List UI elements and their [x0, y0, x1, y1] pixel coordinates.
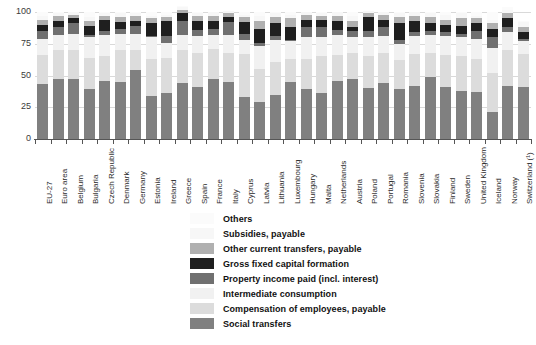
- bar-segment: [161, 58, 172, 94]
- legend-color-swatch: [190, 303, 214, 314]
- legend-color-swatch: [190, 273, 214, 284]
- bar-segment: [130, 26, 141, 34]
- x-axis-tick: [128, 139, 129, 144]
- legend-item[interactable]: Other current transfers, payable: [190, 241, 450, 256]
- legend-color-swatch: [190, 243, 214, 254]
- bar-stack: [425, 12, 436, 139]
- bar-segment: [115, 34, 126, 51]
- legend-item-label: Compensation of employees, payable: [223, 304, 386, 314]
- bar-segment: [363, 17, 374, 31]
- bar-segment: [223, 35, 234, 53]
- bar-segment: [487, 73, 498, 112]
- bar-segment: [84, 89, 95, 139]
- y-axis-tick-label: 25: [5, 102, 31, 111]
- x-axis-labels: EU-27Euro areaBelgiumBulgariaCzech Repub…: [35, 146, 531, 208]
- bar-segment: [192, 87, 203, 139]
- x-axis-tick: [190, 139, 191, 144]
- legend-color-swatch: [190, 258, 214, 269]
- bar-segment: [208, 79, 219, 139]
- bar-stack: [487, 12, 498, 139]
- x-axis-label: Euro area: [61, 169, 69, 204]
- bar-segment: [332, 35, 343, 55]
- x-axis-ticks: [35, 139, 531, 144]
- bar-stack: [192, 12, 203, 139]
- bar-segment: [68, 79, 79, 139]
- bar-segment: [130, 34, 141, 51]
- bar-segment: [409, 36, 420, 54]
- bar-segment: [192, 36, 203, 53]
- bar-stack: [68, 12, 79, 139]
- x-axis-tick: [330, 139, 331, 144]
- bar-segment: [301, 89, 312, 139]
- bar-segment: [440, 55, 451, 87]
- bar-segment: [425, 23, 436, 31]
- x-axis-tick: [314, 139, 315, 144]
- bar-segment: [316, 20, 327, 28]
- bar-segment: [254, 102, 265, 139]
- bar-segment: [192, 21, 203, 30]
- legend-item[interactable]: Intermediate consumption: [190, 286, 450, 301]
- x-axis-label: Hungary: [309, 174, 317, 204]
- x-axis-tick: [237, 139, 238, 144]
- bar-segment: [223, 82, 234, 139]
- bar-segment: [425, 77, 436, 139]
- bar-segment: [363, 56, 374, 88]
- bar-segment: [254, 29, 265, 43]
- bar-segment: [285, 82, 296, 139]
- x-axis-tick: [516, 139, 517, 144]
- bar-segment: [394, 60, 405, 89]
- bar-segment: [440, 36, 451, 55]
- y-axis-tick-label: 100: [5, 7, 31, 16]
- bar-segment: [471, 92, 482, 139]
- legend-item[interactable]: Others: [190, 211, 450, 226]
- x-axis-tick: [283, 139, 284, 144]
- x-axis-label: Ireland: [170, 180, 178, 204]
- x-axis-tick: [159, 139, 160, 144]
- bar-segment: [409, 54, 420, 86]
- legend-color-swatch: [190, 318, 214, 329]
- bar-stack: [301, 12, 312, 139]
- legend-item[interactable]: Gross fixed capital formation: [190, 256, 450, 271]
- x-axis-tick: [485, 139, 486, 144]
- bar-segment: [84, 26, 95, 35]
- bar-segment: [239, 40, 250, 54]
- bar-stack: [456, 12, 467, 139]
- x-axis-label: Denmark: [123, 172, 131, 204]
- x-axis-label: Switzerland (¹): [526, 152, 534, 204]
- x-axis-label: Iceland: [495, 178, 503, 204]
- legend-item-label: Others: [223, 214, 252, 224]
- x-axis-label: Malta: [325, 184, 333, 204]
- x-axis-label: Luxembourg: [294, 160, 302, 204]
- bar-segment: [130, 70, 141, 139]
- bar-segment: [316, 37, 327, 56]
- bar-segment: [68, 34, 79, 51]
- x-axis-tick: [438, 139, 439, 144]
- legend-item[interactable]: Social transfers: [190, 316, 450, 331]
- bar-stack: [347, 12, 358, 139]
- bar-stack: [518, 21, 529, 139]
- bar-segment: [270, 95, 281, 139]
- bar-segment: [440, 87, 451, 139]
- bar-segment: [223, 22, 234, 35]
- bar-segment: [146, 23, 157, 36]
- bar-segment: [53, 35, 64, 50]
- x-axis-tick: [345, 139, 346, 144]
- x-axis-tick: [206, 139, 207, 144]
- bar-stack: [378, 12, 389, 139]
- bar-segment: [239, 22, 250, 33]
- bar-segment: [502, 32, 513, 50]
- bar-segment: [285, 59, 296, 82]
- bar-segment: [239, 97, 250, 139]
- legend-item[interactable]: Property income paid (incl. interest): [190, 271, 450, 286]
- legend-item[interactable]: Subsidies, payable: [190, 226, 450, 241]
- x-axis-label: Portugal: [387, 174, 395, 204]
- legend-item-label: Property income paid (incl. interest): [223, 274, 378, 284]
- bar-segment: [254, 21, 265, 29]
- legend-item[interactable]: Compensation of employees, payable: [190, 301, 450, 316]
- bar-segment: [115, 82, 126, 139]
- bar-segment: [37, 84, 48, 139]
- bar-stack: [177, 6, 188, 139]
- x-axis-tick: [361, 139, 362, 144]
- bar-segment: [487, 29, 498, 38]
- x-axis-label: Cyprus: [247, 179, 255, 204]
